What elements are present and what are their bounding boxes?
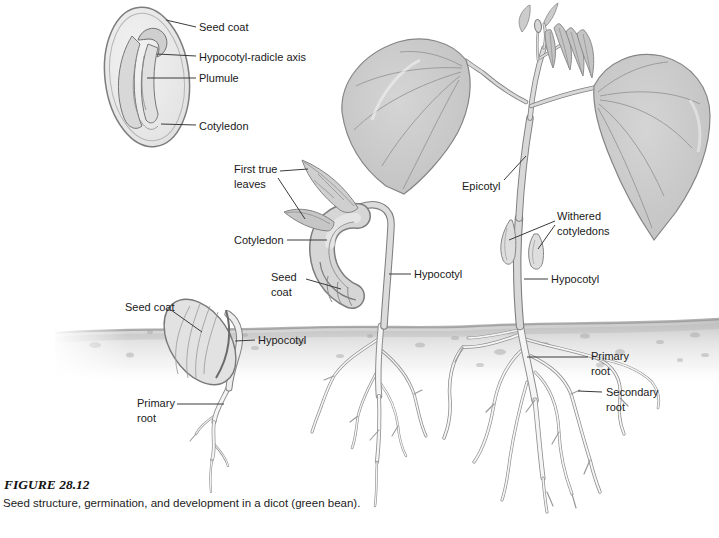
label-seed-coat-section: Seed coat xyxy=(199,20,249,35)
label-cotyledon-section: Cotyledon xyxy=(199,119,249,134)
mature-plant-illustration xyxy=(342,3,710,512)
label-hypocotyl-seedling: Hypocotyl xyxy=(414,267,462,282)
label-epicotyl: Epicotyl xyxy=(462,179,501,194)
label-primary-root-germinating: Primary root xyxy=(137,396,183,425)
label-seed-coat-seedling: Seed coat xyxy=(271,270,307,299)
germinating-seed-illustration xyxy=(149,286,251,492)
seed-cross-section-illustration xyxy=(97,2,197,151)
label-plumule: Plumule xyxy=(199,71,239,86)
label-cotyledon-seedling: Cotyledon xyxy=(234,233,284,248)
left-leaf xyxy=(342,39,470,194)
label-hypocotyl-germinating: Hypocotyl xyxy=(258,333,306,348)
label-hypocotyl-radicle-axis: Hypocotyl-radicle axis xyxy=(199,50,306,65)
figure-number: FIGURE 28.12 xyxy=(4,477,90,493)
figure-caption: Seed structure, germination, and develop… xyxy=(3,497,360,509)
shoot-apex xyxy=(519,3,558,33)
label-seed-coat-germinating: Seed coat xyxy=(125,300,175,315)
label-secondary-root: Secondary root xyxy=(606,385,666,414)
label-first-true-leaves: First true leaves xyxy=(234,162,288,191)
diagram-artwork xyxy=(0,0,719,538)
label-primary-root-mature: Primary root xyxy=(591,349,637,378)
label-withered-cotyledons: Withered cotyledons xyxy=(557,209,623,238)
germinating-seed-root xyxy=(190,386,229,492)
figure-panel: Seed coat Hypocotyl-radicle axis Plumule… xyxy=(0,0,719,538)
label-hypocotyl-mature: Hypocotyl xyxy=(551,272,599,287)
young-leaves xyxy=(545,24,594,78)
